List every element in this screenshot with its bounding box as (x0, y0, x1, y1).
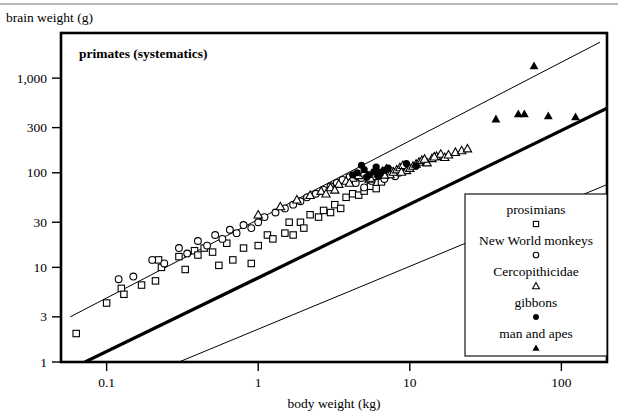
data-point-open-square (343, 194, 349, 200)
data-point-open-square (373, 185, 379, 191)
data-point-filled-triangle (492, 115, 501, 123)
data-point-open-circle (361, 184, 368, 191)
data-point-open-square (195, 252, 201, 258)
data-point-open-circle (176, 245, 183, 252)
data-point-open-square (240, 245, 246, 251)
data-point-open-square (286, 219, 292, 225)
data-point-open-circle (149, 256, 156, 263)
data-point-filled-circle (358, 162, 365, 169)
legend-marker-open-square (533, 221, 538, 226)
data-point-open-circle (240, 222, 247, 229)
data-point-open-circle (233, 230, 240, 237)
data-point-open-square (230, 257, 236, 263)
data-point-open-circle (115, 276, 122, 283)
data-point-open-square (152, 278, 158, 284)
data-point-filled-circle (403, 160, 410, 167)
data-point-filled-triangle (530, 61, 539, 69)
x-axis-ticks: 0.1110100 (98, 362, 572, 390)
legend-marker-filled-circle (533, 314, 539, 320)
legend-label: prosimians (506, 202, 565, 217)
data-point-filled-circle (363, 173, 370, 180)
data-point-open-square (337, 205, 343, 211)
data-point-open-square (176, 253, 182, 259)
data-point-open-square (248, 260, 254, 266)
y-tick-label: 1,000 (17, 71, 48, 86)
data-point-open-square (255, 242, 261, 248)
data-point-open-square (209, 249, 215, 255)
data-point-open-triangle (463, 144, 471, 152)
data-point-open-square (315, 214, 321, 220)
data-point-open-square (307, 212, 313, 218)
y-tick-label: 10 (34, 260, 48, 275)
data-point-open-square (73, 330, 79, 336)
data-point-open-square (138, 282, 144, 288)
data-point-open-circle (130, 273, 137, 280)
legend-label: Cercopithicidae (493, 264, 578, 279)
data-point-filled-circle (385, 165, 392, 172)
data-point-open-circle (248, 225, 255, 232)
data-point-open-circle (184, 250, 191, 257)
data-point-open-square (320, 207, 326, 213)
y-axis-ticks: 1310301003001,000 (17, 71, 61, 370)
legend-label: gibbons (515, 295, 558, 310)
data-point-open-square (282, 230, 288, 236)
data-point-open-circle (204, 242, 211, 249)
data-point-filled-circle (412, 162, 419, 169)
primates-brain-body-scatter-chart: brain weight (g) 1310301003001,000 0.111… (0, 0, 618, 418)
data-point-open-square (270, 236, 276, 242)
data-point-filled-triangle (520, 109, 529, 117)
data-point-open-square (301, 225, 307, 231)
data-point-open-circle (194, 238, 201, 245)
y-tick-label: 100 (27, 165, 48, 180)
data-point-open-square (290, 232, 296, 238)
x-tick-label: 0.1 (98, 375, 115, 390)
data-point-filled-triangle (544, 111, 553, 119)
data-point-filled-circle (349, 171, 356, 178)
data-point-filled-circle (373, 163, 380, 170)
data-point-open-triangle (254, 211, 262, 219)
data-point-open-square (327, 209, 333, 215)
x-tick-label: 100 (551, 375, 572, 390)
chart-svg: brain weight (g) 1310301003001,000 0.111… (0, 0, 618, 418)
data-point-open-circle (226, 226, 233, 233)
data-point-filled-circle (375, 173, 382, 180)
x-tick-label: 1 (255, 375, 262, 390)
y-tick-label: 3 (40, 309, 47, 324)
data-point-open-square (121, 291, 127, 297)
legend-label: man and apes (499, 326, 572, 341)
data-point-open-circle (212, 232, 219, 239)
data-point-open-circle (255, 219, 262, 226)
data-point-open-square (216, 262, 222, 268)
x-tick-label: 10 (403, 375, 417, 390)
y-axis-title: brain weight (g) (6, 10, 93, 25)
x-axis-title: body weight (kg) (288, 396, 381, 411)
y-tick-label: 30 (34, 215, 48, 230)
data-point-filled-triangle (571, 112, 580, 120)
data-point-open-circle (219, 235, 226, 242)
data-point-open-square (182, 266, 188, 272)
y-tick-label: 1 (40, 355, 47, 370)
data-point-open-circle (161, 260, 168, 267)
y-tick-label: 300 (27, 120, 48, 135)
chart-legend: prosimiansNew World monkeysCercopithicid… (465, 194, 607, 356)
plot-title: primates (systematics) (79, 46, 208, 61)
legend-label: New World monkeys (479, 233, 593, 248)
legend-marker-open-circle (533, 252, 539, 258)
data-point-open-square (103, 300, 109, 306)
